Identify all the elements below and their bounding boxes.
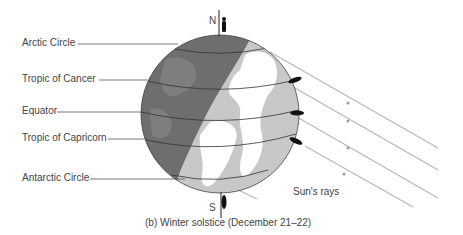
label-south: S xyxy=(209,203,216,213)
person-south-pole-icon xyxy=(222,195,227,209)
label-tropic-of-capricorn: Tropic of Capricorn xyxy=(22,133,107,143)
person-north-pole-icon xyxy=(222,17,226,32)
label-tropic-of-cancer: Tropic of Cancer xyxy=(22,74,96,84)
label-equator: Equator xyxy=(22,106,57,116)
figure-caption: (b) Winter solstice (December 21–22) xyxy=(145,218,311,228)
label-arctic-circle: Arctic Circle xyxy=(22,38,75,48)
label-suns-rays: Sun's rays xyxy=(293,187,339,197)
person-equator-icon xyxy=(290,111,304,116)
label-antarctic-circle: Antarctic Circle xyxy=(22,173,89,183)
ray-arrow-icons xyxy=(342,101,349,175)
label-north: N xyxy=(209,16,216,26)
solstice-diagram xyxy=(0,0,463,235)
